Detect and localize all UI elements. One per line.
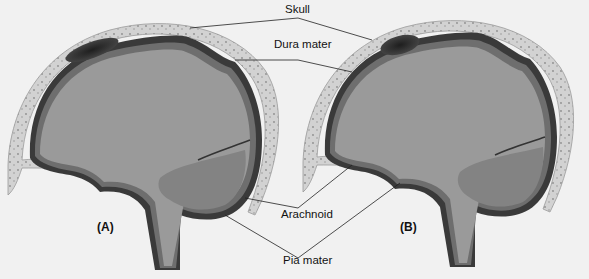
label-arachnoid: Arachnoid xyxy=(281,208,333,220)
panel-label-a: (A) xyxy=(97,220,114,234)
panel-b xyxy=(303,21,574,267)
label-skull: Skull xyxy=(285,3,310,15)
label-pia-mater: Pia mater xyxy=(283,254,332,266)
panel-label-b: (B) xyxy=(400,220,417,234)
label-dura-mater: Dura mater xyxy=(274,38,332,50)
panel-a xyxy=(8,24,279,270)
